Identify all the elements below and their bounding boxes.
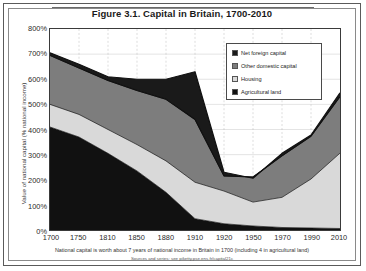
x-tick-1750: 1750	[70, 233, 86, 242]
x-tick-1880: 1880	[158, 233, 174, 242]
x-tick-1970: 1970	[274, 233, 290, 242]
figure-caption: National capital is worth about 7 years …	[4, 247, 360, 253]
x-tick-1920: 1920	[216, 233, 232, 242]
legend-label: Agricultural land	[241, 89, 281, 95]
figure-frame: Figure 3.1. Capital in Britain, 1700-201…	[3, 3, 361, 266]
legend-swatch-icon	[232, 76, 238, 82]
legend-swatch-icon	[232, 50, 238, 56]
y-axis-tick-labels: 0%100%200%300%400%500%600%700%800%	[4, 28, 47, 231]
legend-label: Other domestic capital	[241, 63, 297, 69]
x-tick-1990: 1990	[304, 233, 320, 242]
y-tick-800: 800%	[5, 24, 47, 33]
legend-label: Housing	[241, 76, 262, 82]
y-tick-200: 200%	[5, 176, 47, 185]
x-tick-1700: 1700	[43, 233, 59, 242]
y-tick-500: 500%	[5, 100, 47, 109]
x-tick-2010: 2010	[331, 233, 347, 242]
plot-wrapper: Value of national capital (% national in…	[4, 4, 362, 267]
y-tick-400: 400%	[5, 125, 47, 134]
legend-item-housing[interactable]: Housing	[232, 76, 262, 82]
x-axis-tick-labels: 1700175018101850188019101920195019701990…	[49, 233, 341, 247]
x-tick-1950: 1950	[245, 233, 261, 242]
figure-source: Sources and series: see piketty.pse.ens.…	[4, 256, 360, 261]
legend-item-agricultural-land[interactable]: Agricultural land	[232, 89, 281, 95]
legend-item-net-foreign-capital[interactable]: Net foreign capital	[232, 50, 286, 56]
legend-swatch-icon	[232, 89, 238, 95]
y-tick-300: 300%	[5, 150, 47, 159]
x-tick-1810: 1810	[99, 233, 115, 242]
y-tick-100: 100%	[5, 201, 47, 210]
x-tick-1910: 1910	[187, 233, 203, 242]
chart-legend: Net foreign capitalOther domestic capita…	[226, 43, 322, 100]
legend-item-other-domestic-capital[interactable]: Other domestic capital	[232, 63, 297, 69]
legend-label: Net foreign capital	[241, 50, 286, 56]
legend-swatch-icon	[232, 63, 238, 69]
y-tick-600: 600%	[5, 74, 47, 83]
y-tick-0: 0%	[5, 227, 47, 236]
y-tick-700: 700%	[5, 49, 47, 58]
x-tick-1850: 1850	[128, 233, 144, 242]
